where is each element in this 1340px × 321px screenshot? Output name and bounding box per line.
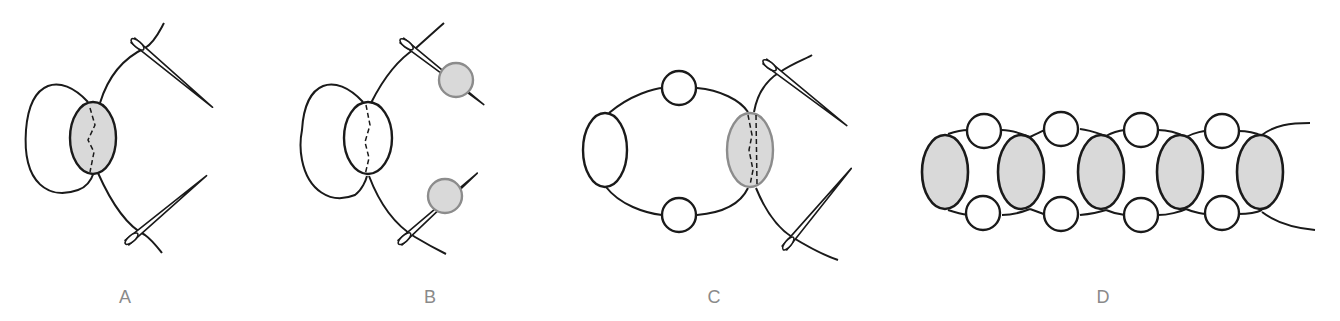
round-bead-bottom-3: [1124, 198, 1158, 232]
round-bead-top-2: [1044, 112, 1078, 146]
needle-upper: [761, 58, 848, 128]
panel-label-b: B: [410, 287, 450, 308]
panel-d: [922, 112, 1315, 232]
round-bead-bottom-4: [1205, 196, 1239, 230]
new-bead-upper: [439, 63, 473, 97]
oval-bead-2: [998, 135, 1044, 209]
panel-label-a: A: [105, 287, 145, 308]
thread-end-lower: [1262, 212, 1315, 230]
thread-loop: [301, 84, 368, 198]
panel-label-c: C: [694, 287, 734, 308]
shaded-bead: [70, 102, 116, 174]
round-bead-bottom-2: [1044, 197, 1078, 231]
round-bead-bottom-1: [966, 196, 1000, 230]
round-bead-top-3: [1124, 113, 1158, 147]
thread-end-upper: [1262, 123, 1310, 135]
bead-top: [662, 71, 696, 105]
bead-left: [583, 113, 627, 187]
oval-bead-5: [1237, 135, 1283, 209]
beading-diagram: [0, 0, 1340, 321]
needle-lower: [123, 173, 208, 246]
thread-through-bead: [756, 115, 757, 185]
bead-bottom: [662, 198, 696, 232]
round-bead-top-1: [967, 114, 1001, 148]
oval-bead-4: [1157, 135, 1203, 209]
panel-label-d: D: [1083, 287, 1123, 308]
panel-b: [301, 23, 486, 254]
ring-thread: [606, 187, 662, 215]
ring-thread: [609, 88, 664, 113]
ring-thread: [697, 88, 748, 112]
round-bead-top-4: [1205, 114, 1239, 148]
oval-bead-3: [1078, 135, 1124, 209]
thread-upper: [100, 23, 164, 103]
needle-lower: [781, 166, 854, 251]
thread-through-bead: [365, 105, 370, 175]
new-bead-lower: [428, 179, 462, 213]
oval-bead-1: [922, 135, 968, 209]
panel-c: [583, 55, 854, 260]
ring-thread: [697, 188, 748, 215]
panel-a: [26, 23, 215, 253]
needle-upper: [129, 37, 214, 110]
